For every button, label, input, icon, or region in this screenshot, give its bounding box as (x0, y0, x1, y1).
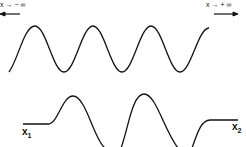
right-arrow-icon (214, 12, 238, 16)
left-arrow-icon (0, 12, 20, 16)
x2-label: x2 (232, 121, 241, 134)
x2-subscript: 2 (238, 127, 242, 134)
x1-label: x1 (22, 126, 31, 139)
x1-subscript: 1 (28, 132, 32, 139)
wave-packet-curve (23, 94, 238, 147)
minus-infinity-label: x → − ∞ (0, 1, 25, 8)
plus-infinity-label: x → + ∞ (206, 1, 231, 8)
infinite-wave-curve (9, 26, 209, 72)
diagram-canvas (0, 0, 246, 147)
